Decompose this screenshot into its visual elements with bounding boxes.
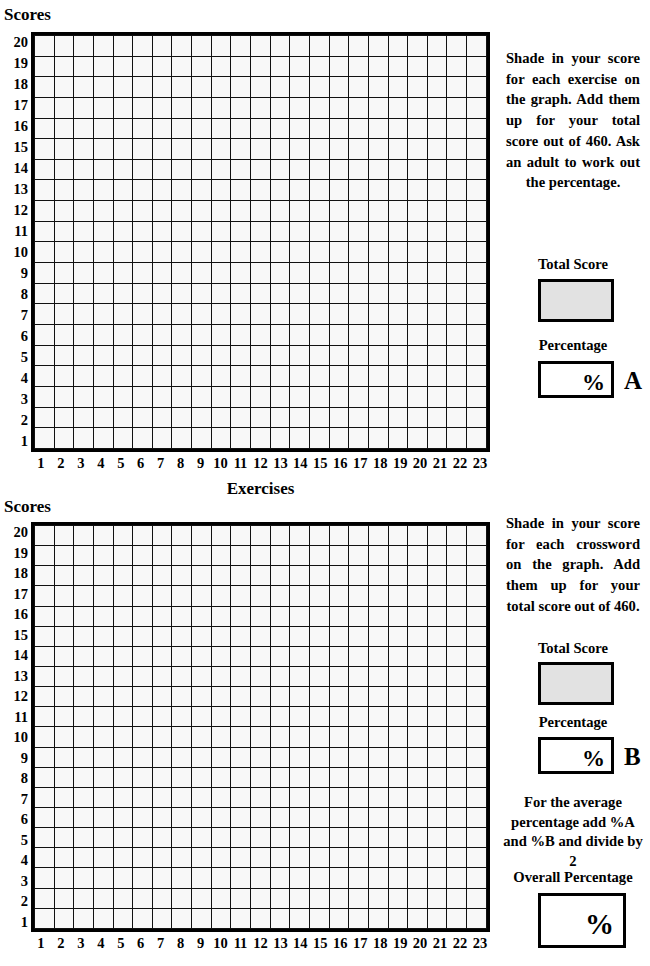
grid-cell[interactable]: [251, 687, 271, 707]
grid-cell[interactable]: [211, 586, 231, 606]
grid-cell[interactable]: [270, 283, 290, 304]
grid-cell[interactable]: [211, 263, 231, 284]
grid-cell[interactable]: [133, 586, 153, 606]
grid-cell[interactable]: [368, 687, 388, 707]
grid-cell[interactable]: [270, 366, 290, 387]
grid-cell[interactable]: [113, 908, 133, 928]
grid-cell[interactable]: [408, 366, 428, 387]
grid-cell[interactable]: [309, 848, 329, 868]
grid-cell[interactable]: [349, 868, 369, 888]
grid-cell[interactable]: [93, 868, 113, 888]
grid-cell[interactable]: [309, 221, 329, 242]
grid-cell[interactable]: [309, 787, 329, 807]
grid-cell[interactable]: [231, 888, 251, 908]
grid-cell[interactable]: [54, 366, 74, 387]
grid-cell[interactable]: [231, 366, 251, 387]
grid-cell[interactable]: [309, 201, 329, 222]
grid-cell[interactable]: [192, 159, 212, 180]
grid-cell[interactable]: [35, 242, 55, 263]
grid-cell[interactable]: [74, 908, 94, 928]
grid-cell[interactable]: [54, 139, 74, 160]
grid-cell[interactable]: [93, 139, 113, 160]
grid-cell[interactable]: [93, 345, 113, 366]
grid-cell[interactable]: [251, 263, 271, 284]
grid-cell[interactable]: [172, 848, 192, 868]
grid-cell[interactable]: [74, 242, 94, 263]
grid-cell[interactable]: [251, 366, 271, 387]
grid-cell[interactable]: [368, 221, 388, 242]
grid-cell[interactable]: [54, 97, 74, 118]
grid-cell[interactable]: [427, 807, 447, 827]
grid-cell[interactable]: [113, 526, 133, 546]
grid-cell[interactable]: [133, 828, 153, 848]
grid-cell[interactable]: [54, 646, 74, 666]
grid-cell[interactable]: [349, 201, 369, 222]
grid-cell[interactable]: [172, 687, 192, 707]
grid-cell[interactable]: [113, 666, 133, 686]
grid-cell[interactable]: [368, 727, 388, 747]
grid-cell[interactable]: [270, 407, 290, 428]
grid-cell[interactable]: [74, 868, 94, 888]
grid-cell[interactable]: [349, 526, 369, 546]
grid-cell[interactable]: [427, 180, 447, 201]
grid-cell[interactable]: [388, 345, 408, 366]
grid-cell[interactable]: [93, 747, 113, 767]
grid-cell[interactable]: [113, 848, 133, 868]
grid-cell[interactable]: [35, 263, 55, 284]
grid-cell[interactable]: [329, 345, 349, 366]
grid-cell[interactable]: [270, 56, 290, 77]
grid-cell[interactable]: [211, 848, 231, 868]
grid-cell[interactable]: [152, 626, 172, 646]
grid-cell[interactable]: [231, 526, 251, 546]
grid-cell[interactable]: [35, 36, 55, 57]
grid-cell[interactable]: [192, 787, 212, 807]
grid-cell[interactable]: [133, 687, 153, 707]
grid-cell[interactable]: [388, 767, 408, 787]
grid-cell[interactable]: [447, 666, 467, 686]
grid-cell[interactable]: [133, 263, 153, 284]
grid-cell[interactable]: [408, 848, 428, 868]
grid-cell[interactable]: [290, 221, 310, 242]
grid-cell[interactable]: [388, 687, 408, 707]
grid-cell[interactable]: [447, 566, 467, 586]
grid-cell[interactable]: [368, 828, 388, 848]
grid-cell[interactable]: [427, 407, 447, 428]
grid-cell[interactable]: [368, 707, 388, 727]
grid-cell[interactable]: [54, 304, 74, 325]
grid-cell[interactable]: [349, 366, 369, 387]
grid-cell[interactable]: [349, 221, 369, 242]
grid-cell[interactable]: [93, 848, 113, 868]
grid-cell[interactable]: [54, 807, 74, 827]
panel-a-percentage-box[interactable]: %: [538, 361, 614, 398]
grid-cell[interactable]: [231, 606, 251, 626]
grid-cell[interactable]: [349, 807, 369, 827]
grid-cell[interactable]: [309, 386, 329, 407]
grid-cell[interactable]: [467, 56, 487, 77]
grid-cell[interactable]: [113, 324, 133, 345]
grid-cell[interactable]: [172, 180, 192, 201]
grid-cell[interactable]: [54, 324, 74, 345]
grid-cell[interactable]: [309, 56, 329, 77]
grid-cell[interactable]: [251, 407, 271, 428]
grid-cell[interactable]: [133, 767, 153, 787]
grid-cell[interactable]: [368, 807, 388, 827]
grid-cell[interactable]: [152, 97, 172, 118]
grid-cell[interactable]: [447, 646, 467, 666]
grid-cell[interactable]: [329, 201, 349, 222]
grid-cell[interactable]: [270, 646, 290, 666]
grid-cell[interactable]: [172, 366, 192, 387]
grid-cell[interactable]: [152, 848, 172, 868]
grid-cell[interactable]: [231, 56, 251, 77]
grid-cell[interactable]: [172, 428, 192, 449]
grid-cell[interactable]: [349, 242, 369, 263]
grid-cell[interactable]: [93, 324, 113, 345]
grid-cell[interactable]: [309, 97, 329, 118]
grid-cell[interactable]: [192, 366, 212, 387]
grid-cell[interactable]: [74, 787, 94, 807]
grid-cell[interactable]: [251, 586, 271, 606]
grid-cell[interactable]: [172, 77, 192, 98]
grid-cell[interactable]: [408, 221, 428, 242]
grid-cell[interactable]: [349, 828, 369, 848]
grid-cell[interactable]: [270, 908, 290, 928]
grid-cell[interactable]: [113, 386, 133, 407]
